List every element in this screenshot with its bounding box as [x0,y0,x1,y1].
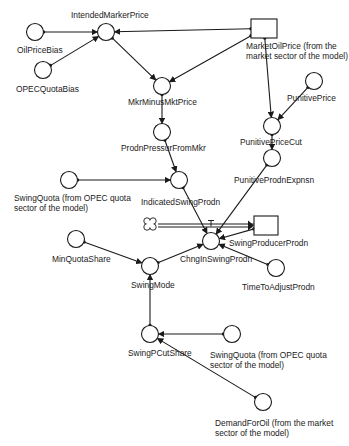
intended-marker-price-auxiliary[interactable] [98,24,115,41]
time-to-adjust-prodn-auxiliary[interactable] [268,260,285,277]
punitive-prodn-expnsn-label: PunitiveProdnExpnsn [234,175,314,185]
cloud-source-icon [144,218,156,230]
label-line: SwingQuota (from OPEC quota [210,350,327,360]
indicated-swing-prodn-label: IndicatedSwingProdn [141,197,220,207]
time-to-adjust-prodn-label: TimeToAdjustProdn [242,282,315,292]
min-quota-share-label: MinQuotaShare [52,254,111,264]
link-layer [44,29,309,398]
label-line: sector of the model) [210,360,327,370]
link-market_oil_price-to-mkr_minus_mkt_price [169,36,251,82]
label-line: SwingQuota (from OPEC quota [14,193,131,203]
swing-p-cut-share-label: SwingPCutShare [128,348,192,358]
swing-quota-1-auxiliary[interactable] [61,172,78,189]
link-intended_marker_price-to-mkr_minus_mkt_price [112,38,156,80]
prodn-pressur-from-mkr-label: ProdnPressurFromMkr [121,143,206,153]
oil-price-bias-auxiliary[interactable] [27,24,44,41]
label-line: sector of the model) [14,203,131,213]
chng-in-swing-prodn-flow[interactable] [203,233,220,250]
swing-producer-prodn-stock[interactable] [254,216,278,235]
flow-layer [158,221,254,231]
punitive-price-label: PunitivePrice [287,93,336,103]
swing-p-cut-share-auxiliary[interactable] [142,326,159,343]
swing-mode-auxiliary[interactable] [142,258,159,275]
prodn-pressur-from-mkr-auxiliary[interactable] [154,124,171,141]
indicated-swing-prodn-auxiliary[interactable] [171,172,188,189]
punitive-prodn-expnsn-auxiliary[interactable] [264,150,281,167]
punitive-price-cut-auxiliary[interactable] [264,118,281,135]
label-line: market sector of the model) [246,51,348,61]
market-oil-price-stock[interactable] [251,19,277,38]
opec-quota-bias-auxiliary[interactable] [35,62,52,79]
link-market_oil_price-to-intended_marker_price [114,29,251,32]
demand-for-oil-label: DemandForOil (from the marketsector of t… [215,418,333,438]
label-line: DemandForOil (from the market [215,418,333,428]
punitive-price-cut-label: PunitivePriceCut [240,137,302,147]
swing-quota-2-label: SwingQuota (from OPEC quotasector of the… [210,350,327,370]
intended-marker-price-label: IntendedMarkerPrice [71,10,149,20]
punitive-price-auxiliary[interactable] [306,73,323,90]
label-line: sector of the model) [215,428,333,438]
oil-price-bias-label: OilPriceBias [17,45,63,55]
swing-quota-1-label: SwingQuota (from OPEC quotasector of the… [14,193,131,213]
mkr-minus-mkt-price-auxiliary[interactable] [154,78,171,95]
opec-quota-bias-label: OPECQuotaBias [16,84,79,94]
diagram-canvas [0,0,349,446]
label-line: MarketOilPrice (from the [246,41,348,51]
mkr-minus-mkt-price-label: MkrMinusMktPrice [128,97,197,107]
swing-producer-prodn-label: SwingProducerProdn [229,238,308,248]
swing-mode-label: SwingMode [131,280,175,290]
min-quota-share-auxiliary[interactable] [68,231,85,248]
market-oil-price-label: MarketOilPrice (from themarket sector of… [246,41,348,61]
chng-in-swing-prodn-label: ChngInSwingProdn [180,254,252,264]
demand-for-oil-auxiliary[interactable] [255,394,272,411]
swing-quota-2-auxiliary[interactable] [224,326,241,343]
